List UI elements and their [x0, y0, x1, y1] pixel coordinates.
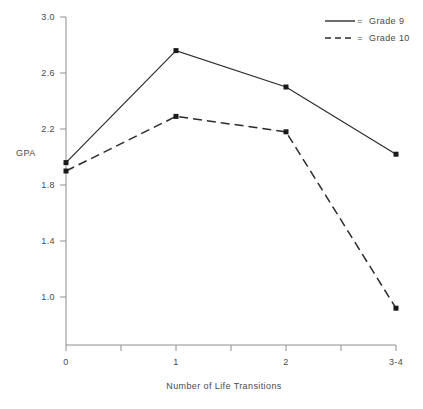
- x-tick-label-0: 0: [63, 357, 68, 367]
- series-grade-9-line: [66, 51, 396, 163]
- legend-separator-grade-9: =: [357, 16, 362, 26]
- data-point-grade-9-2: [284, 85, 289, 90]
- x-tick-label-2: 2: [283, 357, 288, 367]
- series-grade-9: [64, 48, 399, 165]
- legend-separator-grade-10: =: [357, 33, 362, 43]
- y-tick-label-2.6: 2.6: [41, 68, 55, 78]
- legend-label-grade-9: Grade 9: [369, 16, 404, 26]
- y-axis-tick-labels: 3.0 2.6 2.2 1.8 1.4 1.0: [41, 12, 55, 302]
- line-chart: 3.0 2.6 2.2 1.8 1.4 1.0 0 1 2 3-4 GPA Nu…: [0, 0, 423, 409]
- data-point-grade-10-3: [394, 306, 399, 311]
- y-tick-label-2.2: 2.2: [41, 124, 55, 134]
- series-grade-10: [64, 114, 399, 311]
- series-grade-10-line: [66, 116, 396, 308]
- x-tick-label-3-4: 3-4: [389, 357, 403, 367]
- data-point-grade-9-0: [64, 160, 69, 165]
- chart-container: 3.0 2.6 2.2 1.8 1.4 1.0 0 1 2 3-4 GPA Nu…: [0, 0, 423, 409]
- x-axis-ticks: [66, 345, 396, 351]
- x-tick-label-1: 1: [173, 357, 178, 367]
- y-tick-label-1.0: 1.0: [41, 292, 55, 302]
- y-tick-label-3.0: 3.0: [41, 12, 55, 22]
- data-point-grade-10-0: [64, 169, 69, 174]
- legend: = Grade 9 = Grade 10: [325, 16, 410, 43]
- data-point-grade-9-3: [394, 152, 399, 157]
- y-axis-title: GPA: [16, 148, 36, 158]
- legend-entry-grade-9[interactable]: = Grade 9: [325, 16, 404, 26]
- legend-label-grade-10: Grade 10: [369, 33, 410, 43]
- y-axis-ticks: [60, 17, 66, 297]
- data-point-grade-9-1: [174, 48, 179, 53]
- x-axis-tick-labels: 0 1 2 3-4: [63, 357, 403, 367]
- y-tick-label-1.8: 1.8: [41, 180, 55, 190]
- data-point-grade-10-1: [174, 114, 179, 119]
- legend-entry-grade-10[interactable]: = Grade 10: [325, 33, 410, 43]
- data-point-grade-10-2: [284, 129, 289, 134]
- x-axis-title: Number of Life Transitions: [166, 381, 282, 391]
- y-tick-label-1.4: 1.4: [41, 236, 55, 246]
